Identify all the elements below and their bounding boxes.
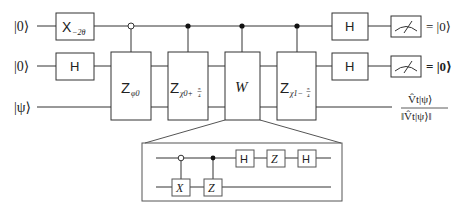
- input-label-wire-1: |0⟩: [14, 19, 29, 34]
- filled-control-dot: [185, 23, 190, 28]
- zoom-connector-left: [145, 120, 225, 143]
- filled-control-dot: [239, 23, 244, 28]
- svg-text:φ0: φ0: [131, 89, 139, 98]
- gate-h-output-1: H: [332, 13, 368, 40]
- measurement-meter-icon: [391, 16, 421, 37]
- filled-control-dot: [294, 23, 299, 28]
- svg-text:X: X: [62, 19, 72, 35]
- svg-text:H: H: [70, 59, 79, 74]
- output-normalized-state: V̂t|ψ⟩ ‖V̂t|ψ⟩‖: [401, 93, 448, 122]
- svg-text:V̂t|ψ⟩: V̂t|ψ⟩: [408, 93, 432, 105]
- gate-h-wire-2: H: [56, 53, 94, 80]
- gate-z-phi0: Z φ0: [111, 52, 151, 120]
- zoom-connector-right: [260, 120, 341, 143]
- w-decomposition-inset: X Z H Z H: [142, 143, 342, 201]
- svg-text:Z: Z: [170, 79, 179, 96]
- svg-text:χ1−: χ1−: [289, 89, 303, 98]
- svg-text:χ0+: χ0+: [179, 89, 193, 98]
- quantum-circuit-diagram: |0⟩ |0⟩ |ψ⟩ X −2θ H Z φ0 Z χ0+ π 4: [0, 0, 474, 212]
- svg-text:Z: Z: [121, 79, 130, 96]
- output-label-wire-1: = |0⟩: [426, 19, 451, 34]
- gate-z-chi0: Z χ0+ π 4: [168, 52, 208, 120]
- svg-text:Z: Z: [280, 79, 289, 96]
- gate-z-chi1: Z χ1− π 4: [277, 52, 316, 120]
- inset-gate-h-1: H: [240, 153, 248, 165]
- svg-text:H: H: [345, 19, 354, 34]
- gate-h-output-2: H: [332, 53, 368, 80]
- output-label-wire-2: = |0⟩: [426, 59, 452, 74]
- svg-text:−2θ: −2θ: [72, 28, 85, 37]
- inset-gate-z: Z: [271, 152, 278, 166]
- gate-w: W: [225, 52, 260, 120]
- input-label-wire-2: |0⟩: [14, 59, 29, 74]
- svg-text:W: W: [235, 79, 249, 95]
- inset-gate-h-2: H: [302, 153, 310, 165]
- inset-gate-x: X: [175, 181, 184, 195]
- open-control-dot: [128, 23, 134, 29]
- svg-text:‖V̂t|ψ⟩‖: ‖V̂t|ψ⟩‖: [401, 110, 432, 122]
- svg-text:H: H: [345, 59, 354, 74]
- measurement-meter-icon: [391, 56, 421, 77]
- inset-gate-z-controlled: Z: [208, 181, 215, 195]
- gate-x-rotation: X −2θ: [56, 13, 94, 40]
- input-label-wire-3: |ψ⟩: [14, 100, 31, 115]
